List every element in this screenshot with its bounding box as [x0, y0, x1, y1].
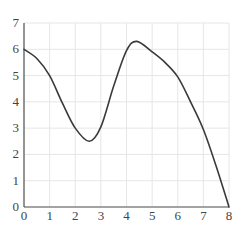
x-tick-label: 4	[123, 208, 130, 223]
x-tick-label: 2	[72, 208, 79, 223]
x-axis-tick-labels: 012345678	[21, 208, 233, 223]
x-tick-label: 7	[200, 208, 207, 223]
line-chart: 012345678 01234567	[0, 0, 243, 232]
x-tick-label: 6	[175, 208, 182, 223]
y-tick-label: 3	[13, 120, 20, 135]
y-tick-label: 6	[13, 41, 20, 56]
y-tick-label: 1	[13, 173, 20, 188]
y-tick-label: 2	[13, 146, 20, 161]
x-tick-label: 8	[226, 208, 233, 223]
x-tick-label: 3	[98, 208, 105, 223]
y-axis-tick-labels: 01234567	[13, 15, 20, 214]
y-tick-label: 0	[13, 199, 20, 214]
y-tick-label: 5	[13, 68, 20, 83]
x-tick-label: 0	[21, 208, 28, 223]
x-tick-label: 1	[46, 208, 53, 223]
y-tick-label: 7	[13, 15, 20, 30]
x-tick-label: 5	[149, 208, 156, 223]
y-tick-label: 4	[13, 94, 20, 109]
